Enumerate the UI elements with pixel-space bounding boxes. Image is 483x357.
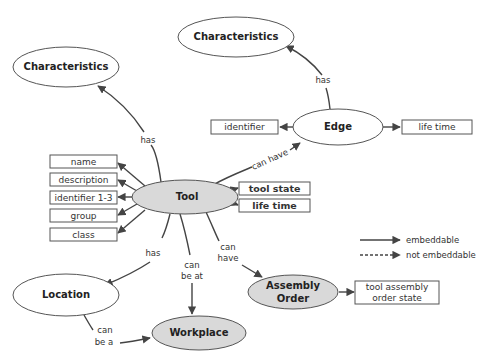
- label-tool-can-be-at-2: be at: [181, 271, 204, 281]
- label-tool-can-have-assembly-1: can: [220, 242, 235, 252]
- attr-edge-identifier: identifier: [211, 120, 278, 134]
- attr-assembly-order-state: tool assembly order state: [355, 281, 439, 304]
- tool-class-label: class: [72, 230, 95, 240]
- label-location-can-be-1: can: [97, 325, 112, 335]
- edge-life-time-label: life time: [419, 122, 456, 132]
- label-location-can-be-2: be a: [95, 337, 114, 347]
- assembly-order-state-label-line2: order state: [372, 293, 422, 303]
- attr-edge-life-time: life time: [402, 120, 472, 134]
- workplace-label: Workplace: [169, 327, 228, 338]
- tool-description-label: description: [58, 175, 108, 185]
- arrow-edge-has-characteristics-head: [286, 46, 322, 75]
- tool-name-label: name: [71, 157, 97, 167]
- attr-tool-identifier: identifier 1-3: [50, 191, 117, 204]
- tool-state-label: tool state: [249, 183, 301, 194]
- tool-label: Tool: [176, 191, 199, 202]
- node-characteristics-top: Characteristics: [178, 17, 294, 57]
- arrow-tool-has-location: [162, 214, 170, 238]
- characteristics-left-label: Characteristics: [24, 61, 109, 72]
- node-assembly-order: Assembly Order: [248, 275, 338, 309]
- node-tool: Tool: [132, 180, 238, 214]
- tool-group-label: group: [70, 211, 96, 221]
- edge-identifier-label: identifier: [224, 122, 265, 132]
- arrow-tool-has-characteristics-head: [98, 86, 144, 132]
- attr-tool-description: description: [50, 173, 117, 186]
- label-tool-has-location: has: [145, 248, 161, 258]
- arrow-location-can-be-workplace-head: [120, 338, 150, 343]
- tool-life-time-label: life time: [252, 200, 297, 211]
- node-location: Location: [13, 274, 119, 316]
- legend-solid-label: embeddable: [406, 235, 459, 245]
- attr-tool-name: name: [50, 155, 117, 168]
- label-tool-has-characteristics: has: [140, 135, 156, 145]
- node-characteristics-left: Characteristics: [13, 47, 119, 87]
- relation-arrows: has has can have has can be at: [84, 46, 400, 347]
- tool-data-model-diagram: has has can have has can be at: [0, 0, 483, 357]
- arrow-tool-can-have-assembly: [206, 212, 219, 241]
- attr-tool-class: class: [50, 228, 117, 241]
- assembly-order-label-line1: Assembly: [266, 280, 320, 291]
- attr-tool-state: tool state: [239, 182, 310, 195]
- assembly-order-state-label-line1: tool assembly: [366, 282, 429, 292]
- edge-label: Edge: [324, 121, 352, 132]
- arrow-edge-has-characteristics: [326, 88, 330, 109]
- arrow-tool-group: [118, 204, 137, 215]
- arrow-tool-can-have-assembly-head: [242, 265, 262, 277]
- location-label: Location: [42, 289, 90, 300]
- label-tool-can-have-assembly-2: have: [218, 253, 239, 263]
- label-edge-has-characteristics: has: [315, 75, 331, 85]
- label-tool-can-have-edge: can have: [250, 147, 290, 172]
- label-tool-can-be-at-1: can: [184, 260, 199, 270]
- arrow-tool-has-location-head: [105, 262, 150, 285]
- arrow-tool-can-be-at-workplace: [180, 214, 190, 255]
- node-workplace: Workplace: [152, 316, 246, 350]
- tool-identifier-label: identifier 1-3: [55, 193, 113, 203]
- arrow-location-can-be-workplace: [84, 315, 93, 330]
- attr-tool-life-time: life time: [239, 199, 310, 212]
- attr-tool-group: group: [50, 209, 117, 222]
- legend: embeddable not embeddable: [360, 235, 476, 260]
- node-edge: Edge: [293, 109, 383, 145]
- assembly-order-label-line2: Order: [277, 293, 309, 304]
- arrow-tool-has-characteristics: [151, 145, 161, 182]
- arrow-tool-can-have-edge-head: [290, 143, 300, 150]
- characteristics-top-label: Characteristics: [194, 31, 279, 42]
- arrow-tool-description: [118, 180, 137, 191]
- legend-dashed-label: not embeddable: [406, 250, 476, 260]
